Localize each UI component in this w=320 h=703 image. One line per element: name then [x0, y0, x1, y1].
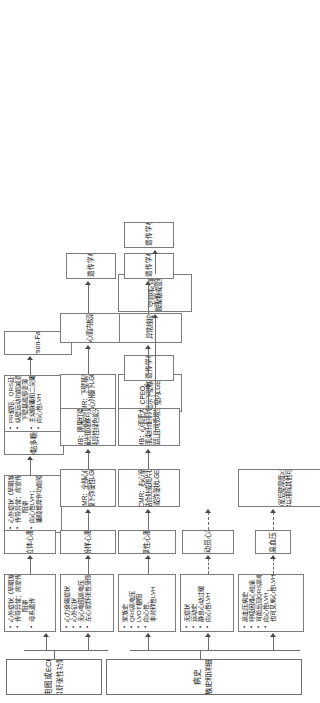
arrow-findings-amyloid — [85, 633, 91, 637]
connector-cmr-hcm — [148, 512, 149, 530]
findings-box-mito: 心外症状（早期发病） 传导异常：房室传导 阻滞 母系遗传 — [4, 574, 56, 632]
diagnosis-label: Anderson-Fabry病 — [34, 331, 42, 355]
diagnosis-box-hcm: 肥厚性心肌病 — [118, 530, 176, 554]
connector-to-findings-hcm — [148, 636, 149, 651]
connector-to-findings-mito — [46, 636, 47, 651]
emb-line: 特异性绿色炭光 — [92, 408, 99, 446]
arrow-emb-fabry — [85, 345, 91, 349]
arrow-cmr-note — [270, 509, 276, 513]
arrow-findings-athlete — [205, 633, 211, 637]
emb-line: 糖胺聚糖或壹细胞 — [155, 274, 162, 312]
arrow-emb-hcm — [145, 449, 151, 453]
cmr-line: CMR：下壁基底 — [81, 374, 88, 412]
findings-box-hcm: 家族史 QRS高电压 LVOT梗阻 向心性、 非对称性LVH — [118, 574, 176, 632]
emb-line: EMB：心肌内板层状聚集 — [86, 313, 93, 343]
diagnosis-box-danon: 丹侬病/黏多糖贮积症 — [4, 431, 64, 455]
findings-box-athlete: 无症状 运动史 静息心动过缓 向心性LVH — [180, 574, 234, 632]
finding-line: 左心室舒张性受限 — [85, 577, 92, 628]
connector-cmr-note-athlete — [208, 512, 209, 530]
cmr-box-hcm: CMR：右心室 结合处或斑片状 或弥漫状LGE — [118, 469, 180, 507]
connector-emb-mito — [148, 348, 149, 374]
cmr-box-amyloid: CMR：全部心内 膜下弥漫性LGE — [60, 469, 116, 507]
cmr-line: 或弥漫状LGE — [153, 469, 160, 507]
root-history-spine — [130, 650, 300, 651]
arrow-genetic-mito — [145, 281, 151, 285]
cmr-box-fabry: CMR：下壁基底 部心外膜下LGE — [60, 374, 116, 412]
connector-cmr-amyloid — [88, 512, 89, 530]
connector-genetic-hcm — [148, 386, 149, 408]
note-line: 如果左心室后壁厚度≥15mm， — [278, 469, 285, 507]
cmr-line: 结合处或斑片状 — [145, 469, 152, 507]
arrow-diagnosis-fabry — [27, 356, 33, 360]
connector-diagnosis-danon — [30, 459, 31, 475]
diagnosis-label: 运动员心脏 — [204, 530, 212, 554]
diagnosis-label: 线粒体心肌病 — [26, 530, 34, 554]
arrow-diagnosis-mito — [27, 555, 33, 559]
flowchart-canvas: 病史 （包括家族史和详细既往史） 心电图或ECHO （包括瓣膜评估、收缩性和舒张… — [0, 0, 309, 703]
connector-diagnosis-athlete — [208, 558, 209, 574]
arrow-findings-hypertension — [270, 633, 276, 637]
diagnosis-box-amyloid: 淀粉样心肌病 — [60, 530, 116, 554]
diagnosis-label: 淀粉样心肌病 — [84, 530, 92, 554]
emb-line: 肌束纤维排列 — [145, 408, 152, 446]
emb-line: 混乱且间质增生 — [153, 408, 160, 446]
connector-genetic-mito — [148, 285, 149, 313]
arrow-cmr-amyloid — [85, 509, 91, 513]
connector-diagnosis-amyloid — [88, 558, 89, 574]
arrow-findings-mito — [43, 633, 49, 637]
connector-cmr-note — [273, 512, 274, 530]
emb-box-danon: EMB：空泡样心肌细胞； 糖胺聚糖或壹细胞 — [118, 274, 192, 312]
connector-to-findings-amyloid — [88, 636, 89, 651]
cmr-line: CMR：全部心内 — [81, 469, 88, 507]
connector-to-findings-athlete — [208, 636, 209, 651]
genetic-box-danon: 分子遗传学检测 — [124, 222, 174, 248]
finding-line: 非对称性LVH — [150, 577, 157, 628]
arrow-diagnosis-danon — [27, 456, 33, 460]
root-ecg-stem — [54, 651, 55, 659]
findings-box-danon: 心外症状（早期发病） 传导异常：房室传导 阻滞 向心性LVH； 瓣膜增厚伴功能障… — [4, 475, 62, 533]
root-history-title: 病史 — [194, 659, 203, 695]
root-ecg-spine — [24, 650, 108, 651]
root-node-history: 病史 （包括家族史和详细既往史） — [106, 659, 302, 695]
emb-box-mito: EMB：异常线粒体增生 — [118, 313, 182, 343]
cmr-line: 膜下弥漫性LGE — [88, 469, 95, 507]
findings-box-fabry: PR缩短、QRS延长 纵壁运动功能减退及 下壁基底部变薄 主动脉瓣和二尖瓣增厚 … — [4, 375, 66, 433]
diagnosis-label: 高血压 — [269, 532, 277, 553]
genetic-box-hcm: 分子遗传学检测 — [124, 355, 174, 381]
connector-diagnosis-hcm — [148, 558, 149, 574]
finding-line: 向心性LVH — [205, 577, 212, 628]
arrow-emb-danon — [152, 314, 158, 318]
diagnosis-box-mito: 线粒体心肌病 — [4, 530, 56, 554]
note-line: 考虑CMR以排除其他可能的诊断 — [285, 469, 292, 507]
arrow-diagnosis-athlete — [205, 555, 211, 559]
arrow-genetic-fabry — [85, 281, 91, 285]
findings-box-hypertension: 高血压病史 呼吸困难心绞痛 可能出现QRS高电压 向心性LVH， 也可见离心性L… — [238, 574, 304, 632]
connector-genetic-fabry — [88, 285, 89, 313]
connector-emb-hcm — [148, 451, 149, 469]
finding-line: 向心性LVH — [36, 378, 43, 429]
diagnosis-label: 肥厚性心肌病 — [143, 530, 151, 554]
finding-line: 瓣膜增厚伴功能障碍 — [36, 478, 43, 529]
cmr-line: 部心外膜下LGE — [88, 374, 95, 412]
note-box-cmr-exclusion: 如果左心室后壁厚度≥15mm， 考虑CMR以排除其他可能的诊断 — [238, 469, 309, 507]
genetic-box-fabry: 分子遗传学检测 — [66, 253, 116, 279]
arrow-emb-amyloid — [85, 449, 91, 453]
root-history-subtitle: （包括家族史和详细既往史） — [205, 659, 213, 695]
connector-diagnosis-fabry — [30, 359, 31, 375]
connector-diagnosis-hypertension — [273, 558, 274, 574]
flowchart-rotated-group: 病史 （包括家族史和详细既往史） 心电图或ECHO （包括瓣膜评估、收缩性和舒张… — [0, 0, 309, 703]
emb-box-fabry: EMB：心肌内板层状聚集 — [60, 313, 120, 343]
findings-box-amyloid: 心力衰竭症状 心外征状 无心电图高电压 左心室舒张性受限 — [60, 574, 114, 632]
root-ecg-echo-title: 心电图或ECHO — [45, 659, 54, 695]
diagnosis-box-athlete: 运动员心脏 — [182, 530, 234, 554]
arrow-diagnosis-hcm — [145, 555, 151, 559]
connector-diagnosis-mito — [30, 558, 31, 574]
arrow-cmr-hcm — [145, 509, 151, 513]
connector-emb-danon — [155, 317, 156, 431]
genetic-box-mito: 分子遗传学检测 — [124, 253, 174, 279]
genetic-label: 分子遗传学检测 — [87, 253, 94, 279]
diagnosis-box-hypertension: 高血压 — [255, 530, 291, 554]
arrow-genetic-danon — [152, 250, 158, 254]
emb-box-hcm: EMB：心肌肥大； 肌束纤维排列 混乱且间质增生 — [118, 408, 180, 446]
root-ecg-echo-subtitle: （包括瓣膜评估、收缩性和舒张性功能检测、排除瓣膜性疾病） — [56, 659, 63, 695]
